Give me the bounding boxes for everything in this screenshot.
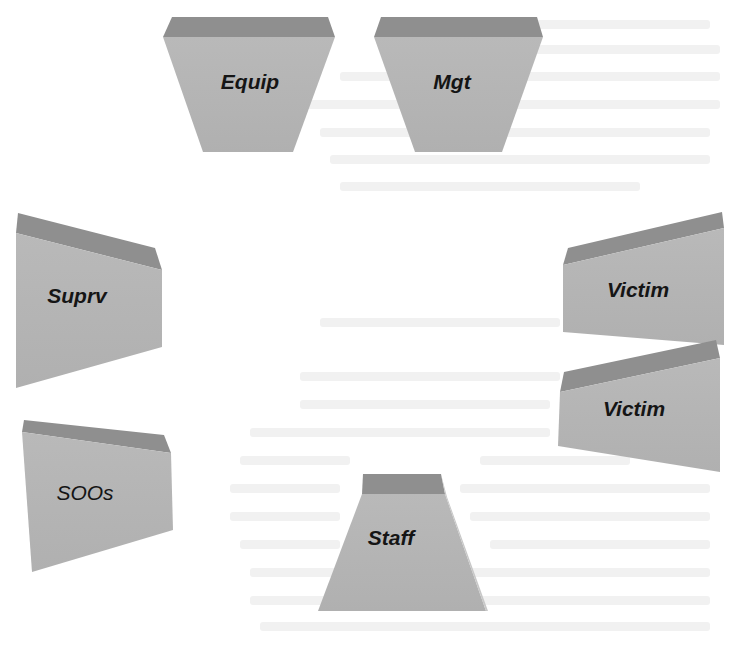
block-equip: Equip bbox=[163, 17, 335, 152]
block-suprv-label: Suprv bbox=[47, 284, 108, 307]
block-victim-1: Victim bbox=[563, 212, 724, 345]
block-victim-2: Victim bbox=[558, 340, 720, 472]
block-soos-label: SOOs bbox=[56, 481, 114, 504]
block-mgt-label: Mgt bbox=[433, 70, 471, 93]
block-victim-2-label: Victim bbox=[603, 397, 665, 420]
block-mgt-front-face bbox=[374, 37, 543, 152]
block-mgt-top-face bbox=[374, 17, 543, 37]
block-staff: Staff bbox=[318, 474, 488, 611]
block-mgt: Mgt bbox=[374, 17, 543, 152]
block-staff-label: Staff bbox=[368, 526, 416, 549]
block-equip-label: Equip bbox=[221, 70, 279, 93]
block-equip-front-face bbox=[163, 37, 335, 152]
block-suprv: Suprv bbox=[16, 213, 162, 388]
block-staff-top-face bbox=[362, 474, 445, 494]
block-equip-top-face bbox=[163, 17, 335, 37]
blocks-diagram: Equip Mgt Suprv Victim Victim SOOs Staff bbox=[0, 0, 734, 645]
block-staff-front-face bbox=[318, 494, 486, 611]
block-victim-1-label: Victim bbox=[607, 278, 669, 301]
block-soos: SOOs bbox=[22, 420, 173, 572]
